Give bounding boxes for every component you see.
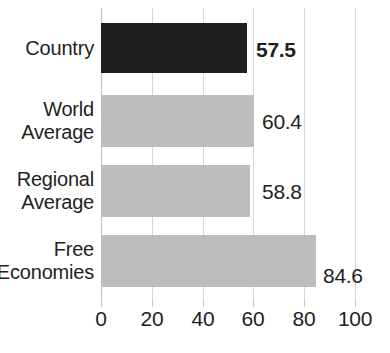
gridline-100	[355, 8, 356, 300]
category-label-line: World	[0, 98, 94, 121]
category-label-line: Free	[0, 238, 94, 261]
tick-label-40: 40	[192, 308, 215, 330]
category-label-line: Country	[0, 37, 94, 60]
category-label-line: Average	[0, 121, 94, 144]
tick-mark-80	[304, 300, 305, 307]
value-label-regional-average: 58.8	[262, 181, 302, 202]
bar-free-economies	[101, 235, 316, 287]
bar-country	[101, 23, 247, 73]
tick-label-100: 100	[338, 308, 372, 330]
tick-mark-20	[152, 300, 153, 307]
tick-label-20: 20	[141, 308, 164, 330]
category-label-world-average: World Average	[0, 98, 94, 144]
category-label-free-economies: Free Economies	[0, 238, 94, 284]
category-label-line: Regional	[0, 168, 94, 191]
bar-world-average	[101, 95, 254, 147]
category-label-country: Country	[0, 37, 94, 60]
value-label-world-average: 60.4	[262, 111, 302, 132]
category-label-regional-average: Regional Average	[0, 168, 94, 214]
category-label-line: Economies	[0, 261, 94, 284]
tick-label-0: 0	[95, 308, 106, 330]
tick-mark-60	[253, 300, 254, 307]
tick-mark-40	[203, 300, 204, 307]
horizontal-bar-chart: Country 57.5 World Average 60.4 Regional…	[0, 0, 390, 353]
tick-mark-0	[101, 300, 102, 307]
tick-mark-100	[355, 300, 356, 307]
category-label-line: Average	[0, 191, 94, 214]
value-label-free-economies: 84.6	[323, 265, 363, 286]
bar-regional-average	[101, 165, 250, 217]
tick-label-60: 60	[242, 308, 265, 330]
value-label-country: 57.5	[256, 39, 296, 60]
tick-label-80: 80	[293, 308, 316, 330]
